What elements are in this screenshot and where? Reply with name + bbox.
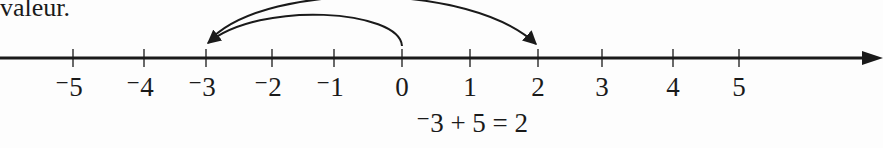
number-line-svg: valeur. ⁻5⁻4⁻3⁻2⁻1012345 ⁻3 + 5 = 2 bbox=[0, 0, 883, 148]
tick-label: 5 bbox=[732, 72, 746, 102]
arc-arrow-0-to-neg3 bbox=[208, 15, 402, 46]
tick-label: 0 bbox=[395, 72, 409, 102]
tick-label: ⁻4 bbox=[126, 72, 154, 102]
axis-arrowhead-icon bbox=[862, 51, 883, 65]
number-line-figure: valeur. ⁻5⁻4⁻3⁻2⁻1012345 ⁻3 + 5 = 2 bbox=[0, 0, 883, 148]
tick-label: ⁻1 bbox=[316, 72, 344, 102]
tick-label: 3 bbox=[595, 72, 609, 102]
header-text: valeur. bbox=[0, 0, 70, 22]
tick-label: ⁻2 bbox=[254, 72, 282, 102]
equation: ⁻3 + 5 = 2 bbox=[416, 108, 528, 138]
tick-label: ⁻5 bbox=[55, 72, 83, 102]
tick-label: 2 bbox=[531, 72, 545, 102]
tick-label: ⁻3 bbox=[188, 72, 216, 102]
tick-label: 4 bbox=[666, 72, 680, 102]
tick-label: 1 bbox=[463, 72, 477, 102]
